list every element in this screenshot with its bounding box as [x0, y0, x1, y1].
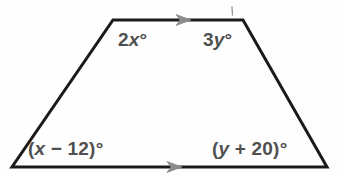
angle-label-bottom-left-suffix: − 12)°	[45, 138, 103, 159]
angle-label-bottom-right-suffix: + 20)°	[229, 138, 287, 159]
angle-label-top-right-suffix: °	[225, 29, 233, 50]
angle-label-bottom-left-variable: x	[35, 138, 46, 159]
angle-label-bottom-right-variable: y	[219, 138, 230, 159]
angle-label-bottom-right: (y + 20)°	[212, 139, 287, 158]
angle-label-top-left: 2x°	[118, 30, 147, 49]
angle-label-top-right-variable: y	[214, 29, 225, 50]
angle-label-bottom-left: (x − 12)°	[28, 139, 103, 158]
angle-label-top-left-variable: x	[129, 29, 140, 50]
angle-label-top-right-prefix: 3	[203, 29, 214, 50]
angle-label-top-right: 3y°	[203, 30, 232, 49]
top-right-tick-icon	[232, 7, 233, 15]
angle-label-top-left-suffix: °	[140, 29, 148, 50]
angle-label-top-left-prefix: 2	[118, 29, 129, 50]
trapezoid-angle-diagram: 2x° 3y° (x − 12)° (y + 20)°	[0, 0, 346, 177]
